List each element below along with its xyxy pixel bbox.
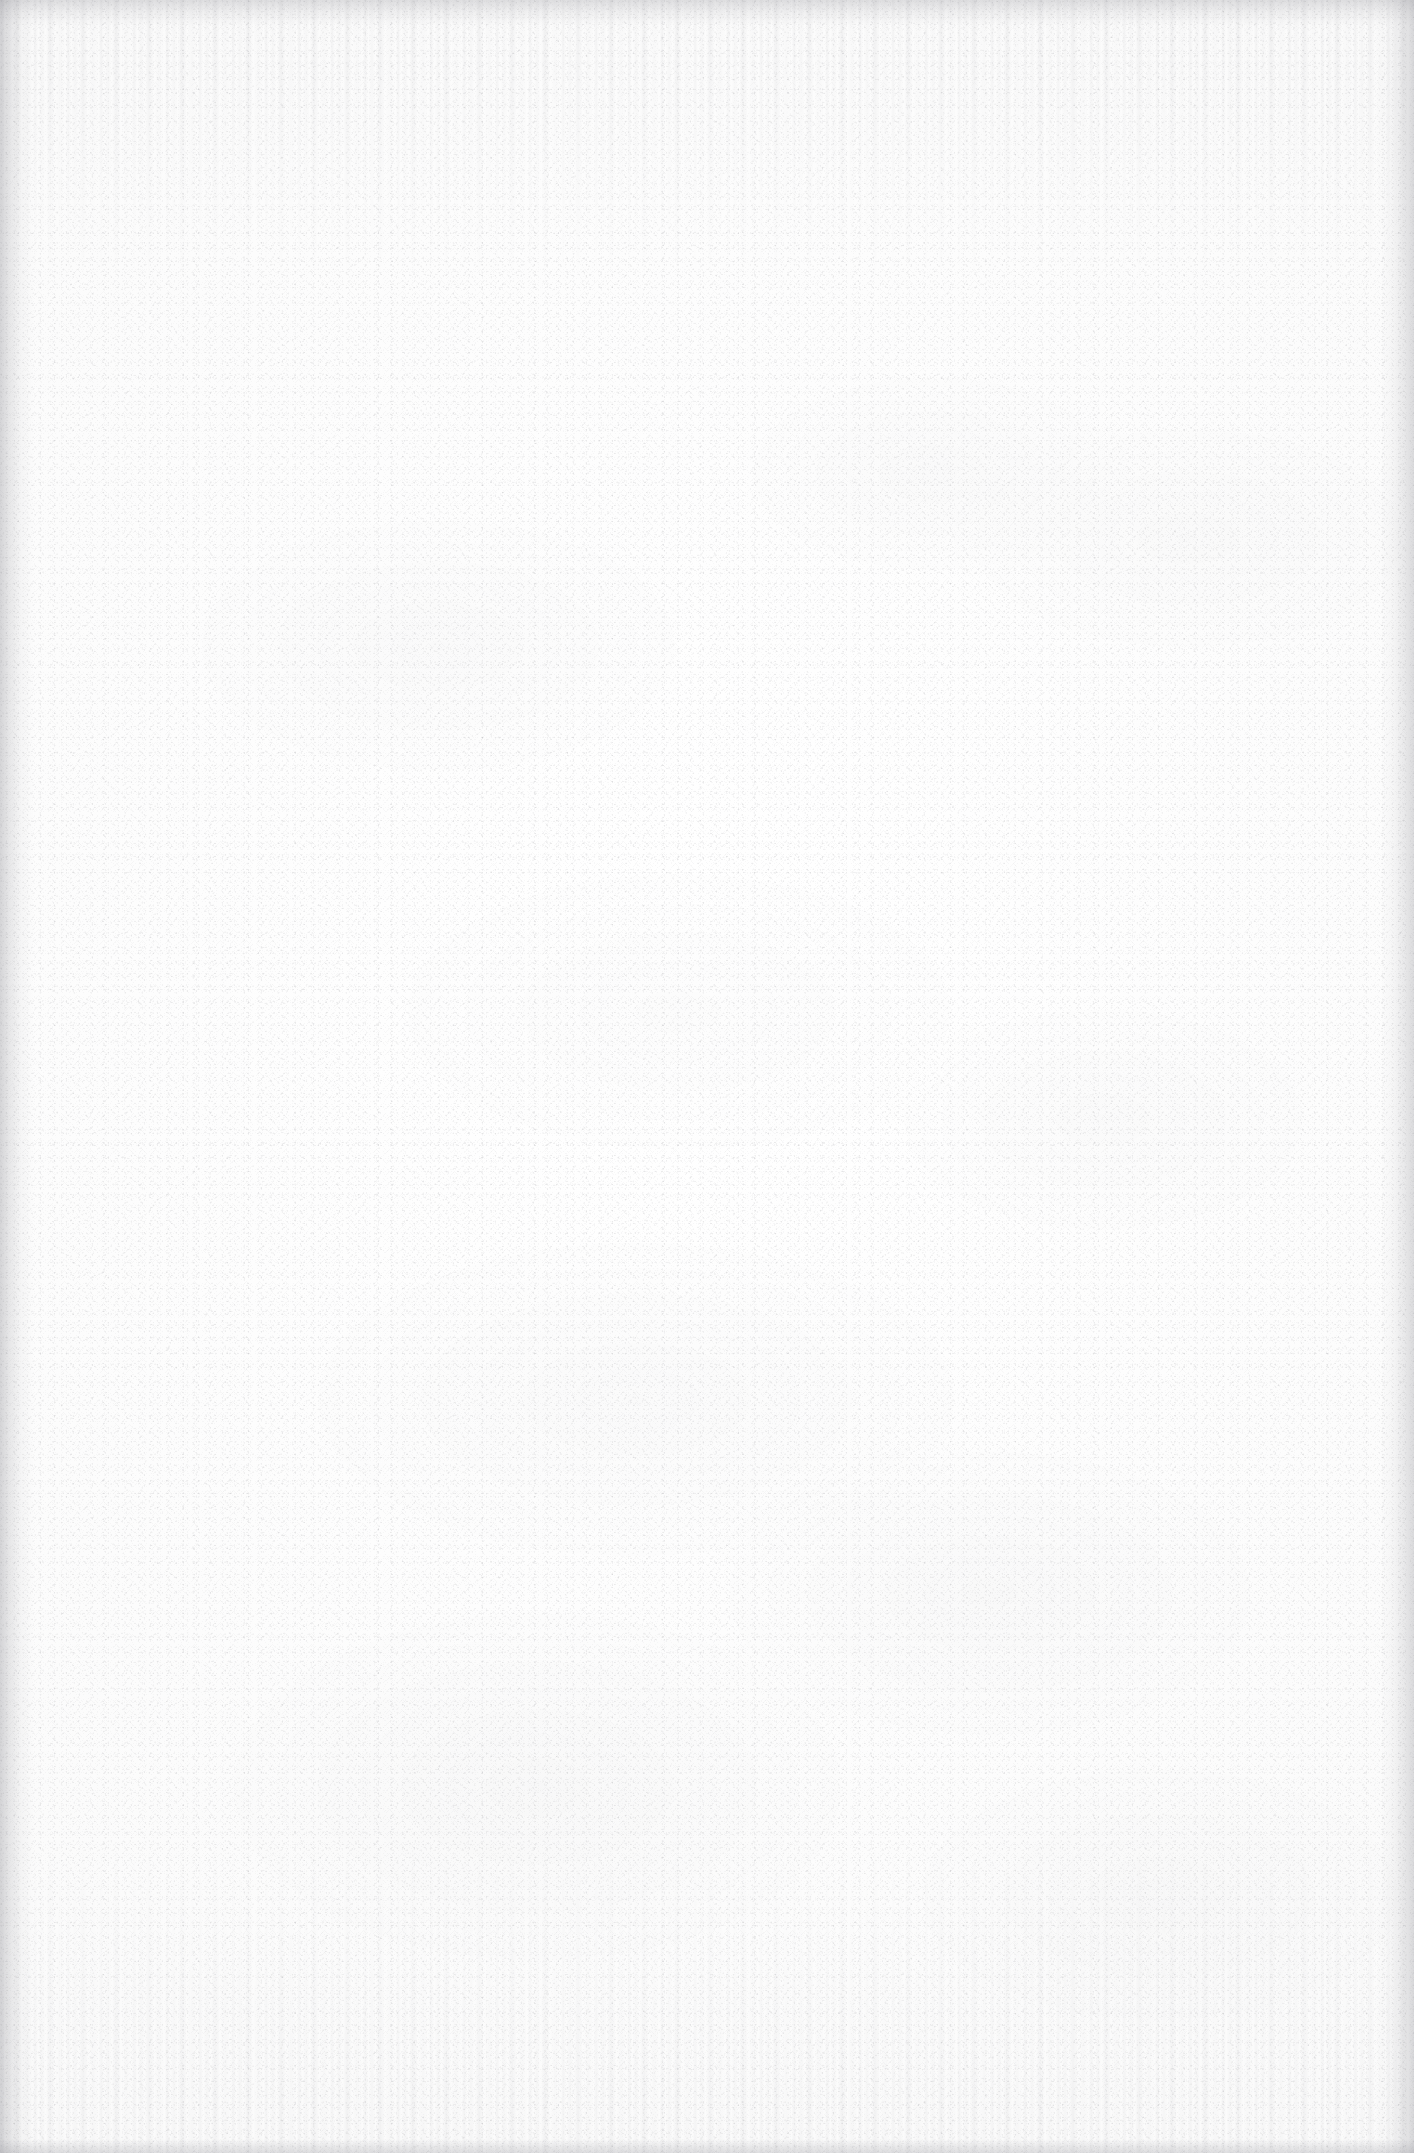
page-content-text [34, 26, 35, 27]
scanned-page [0, 0, 1414, 2153]
page-content-area [34, 26, 1380, 2139]
